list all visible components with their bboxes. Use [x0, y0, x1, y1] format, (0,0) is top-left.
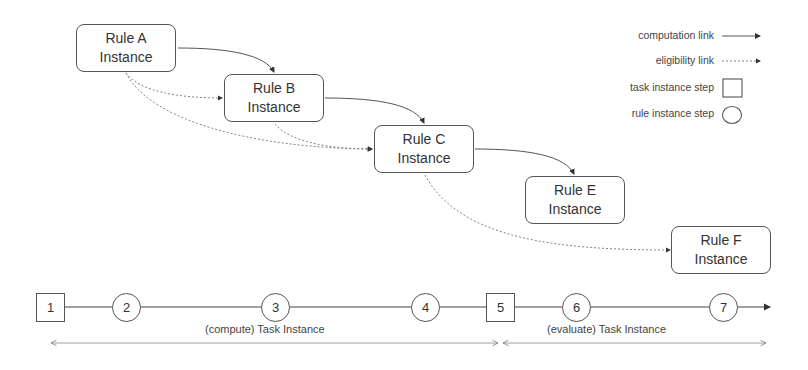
computation-link-c-e: [475, 149, 574, 174]
rule-f-instance: Rule F Instance: [671, 226, 771, 274]
timeline-step-3: 3: [261, 293, 290, 322]
rule-a-instance: Rule A Instance: [76, 24, 176, 72]
rule-b-title: Rule B: [253, 79, 295, 98]
legend-task-step-label: task instance step: [584, 81, 714, 93]
computation-link-a-b: [178, 48, 274, 72]
rule-e-title: Rule E: [554, 181, 596, 200]
rule-f-subtitle: Instance: [695, 250, 748, 269]
legend-rule-step-label: rule instance step: [584, 107, 714, 119]
rule-e-instance: Rule E Instance: [525, 176, 625, 224]
timeline-step-6: 6: [562, 293, 591, 322]
timeline-step-2: 2: [112, 293, 141, 322]
rule-a-subtitle: Instance: [100, 48, 153, 67]
rule-f-title: Rule F: [700, 231, 741, 250]
timeline-step-5: 5: [486, 293, 515, 322]
rule-b-instance: Rule B Instance: [224, 74, 324, 122]
compute-task-instance-label: (compute) Task Instance: [205, 323, 325, 335]
eligibility-link-b-c: [275, 124, 372, 149]
timeline-step-4: 4: [411, 293, 440, 322]
legend-square-icon: [723, 79, 742, 97]
rule-a-title: Rule A: [105, 29, 146, 48]
legend-circle-icon: [723, 107, 742, 124]
evaluate-task-instance-label: (evaluate) Task Instance: [547, 323, 666, 335]
computation-link-b-c: [325, 98, 424, 123]
rule-b-subtitle: Instance: [248, 98, 301, 117]
legend-eligibility-label: eligibility link: [584, 54, 714, 66]
rule-e-subtitle: Instance: [549, 200, 602, 219]
eligibility-link-a-b: [126, 73, 222, 98]
rule-c-instance: Rule C Instance: [374, 125, 474, 173]
timeline-step-1: 1: [36, 293, 65, 322]
rule-c-title: Rule C: [403, 130, 446, 149]
rule-c-subtitle: Instance: [398, 149, 451, 168]
legend-computation-label: computation link: [584, 29, 714, 41]
timeline-step-7: 7: [709, 293, 738, 322]
